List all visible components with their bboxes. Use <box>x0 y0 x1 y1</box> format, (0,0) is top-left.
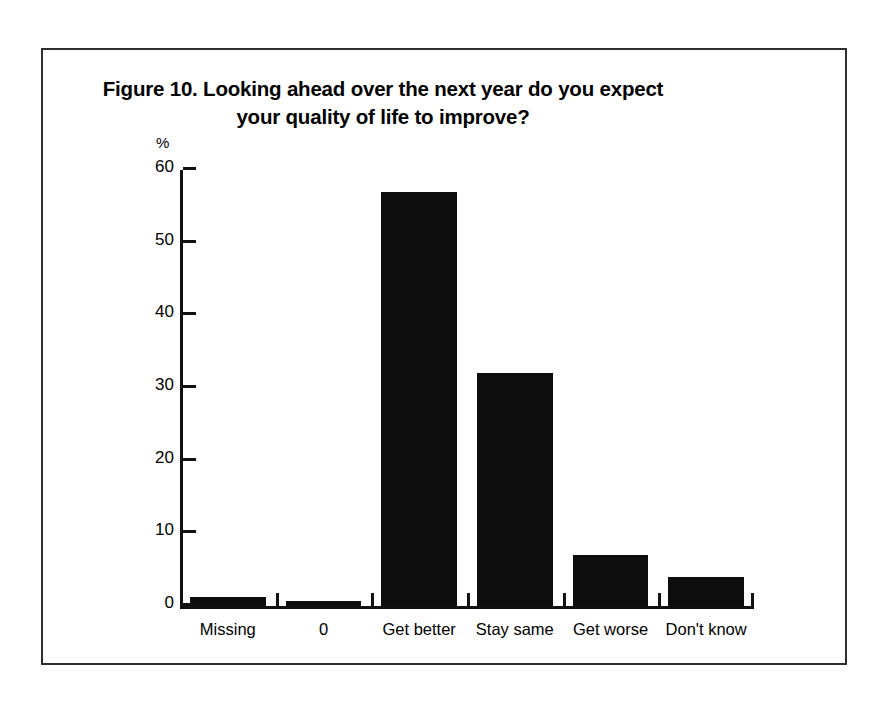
y-axis-tick: 60 <box>183 167 196 170</box>
chart-title: Figure 10. Looking ahead over the next y… <box>63 75 703 131</box>
y-axis-tick: 10 <box>183 530 196 533</box>
x-axis-tick <box>180 593 183 606</box>
chart-title-line-1: Figure 10. Looking ahead over the next y… <box>63 75 703 103</box>
y-axis-unit-label: % <box>156 134 169 151</box>
y-axis-tick: 40 <box>183 312 196 315</box>
y-axis-tick: 20 <box>183 458 196 461</box>
chart-title-line-2: your quality of life to improve? <box>63 103 703 131</box>
y-axis-tick: 30 <box>183 385 196 388</box>
bar <box>190 597 266 606</box>
plot-area: % 0102030405060 Missing0Get betterStay s… <box>180 170 754 609</box>
x-axis-tick <box>467 593 470 606</box>
x-axis-label: 0 <box>276 620 372 639</box>
x-axis-line <box>180 606 754 609</box>
y-axis-tick-label: 50 <box>155 230 174 250</box>
x-axis-label: Missing <box>180 620 276 639</box>
y-axis-tick: 50 <box>183 240 196 243</box>
x-axis-tick <box>563 593 566 606</box>
x-axis-tick <box>658 593 661 606</box>
y-axis-tick-label: 0 <box>165 593 174 613</box>
x-axis-label: Get worse <box>563 620 659 639</box>
figure-frame: Figure 10. Looking ahead over the next y… <box>41 48 847 665</box>
x-axis-label: Don't know <box>658 620 754 639</box>
y-axis-tick-label: 20 <box>155 448 174 468</box>
bar <box>573 555 649 606</box>
bar <box>381 192 457 606</box>
x-axis-tick <box>751 593 754 606</box>
x-axis-tick <box>371 593 374 606</box>
y-axis-line <box>180 170 183 609</box>
x-axis-label: Stay same <box>467 620 563 639</box>
y-axis-tick-label: 30 <box>155 375 174 395</box>
y-axis-tick-label: 60 <box>155 157 174 177</box>
y-axis-tick-label: 10 <box>155 520 174 540</box>
bar <box>477 373 553 606</box>
x-axis-tick <box>276 593 279 606</box>
x-axis-label: Get better <box>371 620 467 639</box>
bar <box>286 601 362 606</box>
bar <box>668 577 744 606</box>
y-axis-tick-label: 40 <box>155 302 174 322</box>
